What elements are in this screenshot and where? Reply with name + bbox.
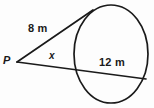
- chord-length-label: 12 m: [99, 57, 125, 68]
- external-point-label: P: [3, 55, 10, 66]
- geometry-canvas: [0, 0, 154, 108]
- tangent-length-label: 8 m: [28, 23, 48, 34]
- circle-shape: [74, 5, 148, 103]
- unknown-segment-label: x: [49, 51, 55, 61]
- tangent-line: [17, 10, 93, 62]
- secant-line: [17, 62, 146, 79]
- geometry-figure: 8 m 12 m P x: [0, 0, 154, 108]
